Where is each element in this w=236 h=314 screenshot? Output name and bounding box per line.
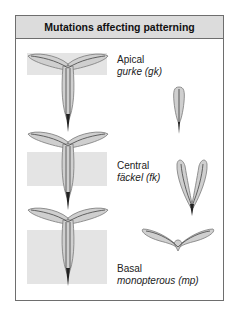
gene-name: gurke (gk): [117, 66, 162, 78]
wildtype-seedling-basal: [26, 204, 110, 294]
region-name: Apical: [117, 54, 144, 65]
figure-title: Mutations affecting patterning: [16, 16, 223, 39]
fackel-mutant-seedling: [174, 158, 210, 218]
central-label: Central fäckel (fk): [117, 160, 160, 184]
figure-frame: Mutations affecting patterning Apical gu…: [15, 15, 224, 301]
monopterous-mutant-seedling: [140, 225, 216, 253]
gene-name: monopterous (mp): [117, 275, 199, 287]
region-name: Central: [117, 160, 149, 171]
gurke-mutant-seedling: [171, 86, 187, 138]
region-name: Basal: [117, 263, 142, 274]
apical-label: Apical gurke (gk): [117, 54, 162, 78]
basal-label: Basal monopterous (mp): [117, 263, 199, 287]
wildtype-seedling-apical: [26, 50, 110, 140]
gene-name: fäckel (fk): [117, 172, 160, 184]
